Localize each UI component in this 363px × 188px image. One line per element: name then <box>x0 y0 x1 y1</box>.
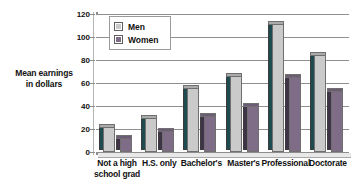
y-axis-tick-labels: 020406080100120 <box>60 14 90 152</box>
y-axis-tick-mark <box>90 129 95 130</box>
bar-front-face <box>120 138 132 152</box>
bar-women-3 <box>243 106 260 152</box>
y-axis-tick-label: 100 <box>64 33 90 42</box>
bar-group <box>223 14 265 152</box>
y-axis-tick-label: 60 <box>64 79 90 88</box>
bar-group <box>265 14 307 152</box>
bar-front-face <box>230 76 242 152</box>
bar-men-4 <box>268 24 285 152</box>
bar-front-face <box>247 106 259 152</box>
y-axis-tick-mark <box>90 106 95 107</box>
bar-men-2 <box>183 88 200 152</box>
legend-label-women: Women <box>128 35 159 45</box>
bar-group <box>180 14 222 152</box>
y-axis-tick-label: 40 <box>64 102 90 111</box>
bar-men-3 <box>226 76 243 152</box>
bar-women-0 <box>116 138 133 152</box>
y-axis-tick-mark <box>90 152 95 153</box>
bar-women-4 <box>285 77 302 152</box>
y-axis-tick-mark <box>90 14 95 15</box>
chart-legend: Men Women <box>109 16 171 50</box>
bar-women-5 <box>327 91 344 152</box>
legend-swatch-women-icon <box>114 35 123 44</box>
legend-label-men: Men <box>128 22 145 32</box>
y-axis-tick-mark <box>90 60 95 61</box>
bar-front-face <box>331 91 343 152</box>
x-axis-label-line: Doctorate <box>300 158 356 169</box>
bar-front-face <box>103 127 115 152</box>
bar-front-face <box>162 131 174 152</box>
bar-women-1 <box>158 131 175 152</box>
x-axis-labels: Not a highschool gradH.S. onlyBachelor's… <box>96 158 349 188</box>
bar-front-face <box>145 118 157 153</box>
legend-item-women: Women <box>114 33 166 46</box>
bar-women-2 <box>200 116 217 152</box>
bar-men-0 <box>99 127 116 152</box>
y-axis-tick-mark <box>90 37 95 38</box>
bar-front-face <box>289 77 301 152</box>
legend-swatch-men-icon <box>114 22 123 31</box>
x-axis-label: Doctorate <box>300 158 356 169</box>
bar-chart: Mean earnings in dollars 020406080100120… <box>0 0 363 188</box>
y-axis-tick-label: 20 <box>64 125 90 134</box>
bar-front-face <box>314 55 326 152</box>
bar-men-1 <box>141 118 158 153</box>
legend-item-men: Men <box>114 20 166 33</box>
bar-front-face <box>204 116 216 152</box>
y-axis-tick-label: 0 <box>64 148 90 157</box>
bar-men-5 <box>310 55 327 152</box>
bar-group <box>307 14 349 152</box>
x-axis-label-line: school grad <box>89 169 145 180</box>
bar-front-face <box>272 24 284 152</box>
y-axis-tick-mark <box>90 83 95 84</box>
y-axis-tick-label: 80 <box>64 56 90 65</box>
y-axis-tick-label: 120 <box>64 10 90 19</box>
bar-front-face <box>187 88 199 152</box>
